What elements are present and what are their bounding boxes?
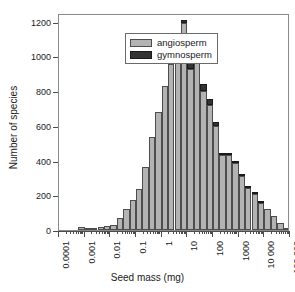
x-axis-minor-tick: [91, 231, 92, 234]
y-axis-tick-label: 600: [36, 122, 51, 131]
x-axis-minor-tick: [179, 231, 180, 234]
x-axis-minor-tick: [276, 231, 277, 234]
x-axis-title: Seed mass (mg): [0, 272, 295, 283]
legend-swatch-angiosperm: [130, 39, 152, 47]
x-axis-minor-tick: [96, 231, 97, 234]
x-axis-tick: [84, 231, 85, 237]
x-axis-minor-tick: [117, 231, 118, 234]
legend-item: angiosperm: [130, 37, 212, 48]
y-axis-tick-label: 200: [36, 192, 51, 201]
bar-segment-gymnosperm: [252, 192, 258, 194]
x-axis-minor-tick: [256, 231, 257, 234]
legend-label-angiosperm: angiosperm: [157, 38, 207, 48]
x-axis-minor-tick: [199, 231, 200, 234]
x-axis-tick: [238, 231, 239, 237]
x-axis-tick: [212, 231, 213, 237]
x-axis-tick: [58, 231, 59, 237]
x-axis-minor-tick: [127, 231, 128, 234]
x-axis-minor-tick: [150, 231, 151, 234]
x-axis-tick: [263, 231, 264, 237]
x-axis-tick-label: 10 000: [267, 241, 276, 269]
x-axis-tick: [186, 231, 187, 237]
bar-segment-gymnosperm: [213, 122, 219, 126]
x-axis-tick-label: 0.0001: [62, 241, 71, 269]
x-axis-minor-tick: [102, 231, 103, 234]
x-axis-tick-label: 100 000: [293, 241, 295, 274]
x-axis-minor-tick: [73, 231, 74, 234]
bar-segment-gymnosperm: [200, 84, 206, 91]
legend-swatch-gymnosperm: [130, 51, 152, 59]
bar-segment-gymnosperm: [258, 201, 264, 203]
y-axis-title: Number of species: [8, 68, 19, 188]
y-axis-tick-label: 0: [46, 227, 51, 236]
legend-label-gymnosperm: gymnosperm: [157, 50, 212, 60]
x-axis-tick-label: 10: [190, 241, 199, 251]
x-axis-minor-tick: [122, 231, 123, 234]
x-axis-minor-tick: [227, 231, 228, 234]
x-axis-minor-tick: [202, 231, 203, 234]
x-axis-minor-tick: [279, 231, 280, 234]
x-axis-tick-label: 0.01: [113, 241, 122, 259]
y-axis-tick-label: 400: [36, 157, 51, 166]
x-axis-tick: [135, 231, 136, 237]
figure-seed-mass-histogram: Number of species 020040060080010001200 …: [0, 0, 295, 292]
x-axis-minor-tick: [224, 231, 225, 234]
x-axis-minor-tick: [70, 231, 71, 234]
x-axis-minor-tick: [253, 231, 254, 234]
x-axis-tick-label: 0.1: [139, 241, 148, 254]
x-axis-minor-tick: [125, 231, 126, 234]
x-axis-minor-tick: [194, 231, 195, 234]
x-axis: 0.00010.0010.010.1110100100010 000100 00…: [58, 231, 289, 232]
bar-segment-gymnosperm: [226, 153, 232, 155]
bar-segment-gymnosperm: [181, 20, 187, 24]
x-axis-minor-tick: [176, 231, 177, 234]
x-axis-tick-label: 100: [216, 241, 225, 256]
x-axis-tick: [161, 231, 162, 237]
x-axis-minor-tick: [143, 231, 144, 234]
bar-segment-gymnosperm: [207, 99, 213, 106]
x-axis-minor-tick: [153, 231, 154, 234]
x-axis-minor-tick: [66, 231, 67, 234]
x-axis-tick-label: 0.001: [88, 241, 97, 264]
plot-area: angiospermgymnosperm: [58, 14, 289, 231]
x-axis-minor-tick: [173, 231, 174, 234]
y-axis-tick-label: 800: [36, 88, 51, 97]
x-axis-minor-tick: [250, 231, 251, 234]
x-axis-minor-tick: [271, 231, 272, 234]
x-axis-minor-tick: [76, 231, 77, 234]
bar-segment-gymnosperm: [232, 161, 238, 163]
x-axis-minor-tick: [245, 231, 246, 234]
x-axis-tick-label: 1: [165, 241, 174, 246]
x-axis-minor-tick: [281, 231, 282, 234]
legend-item: gymnosperm: [130, 49, 212, 60]
bar-segment-angiosperm: [284, 228, 288, 230]
y-axis-tick-label: 1200: [31, 18, 51, 27]
legend: angiospermgymnosperm: [125, 33, 218, 64]
x-axis-minor-tick: [168, 231, 169, 234]
x-axis-minor-tick: [230, 231, 231, 234]
x-axis-minor-tick: [204, 231, 205, 234]
x-axis-minor-tick: [147, 231, 148, 234]
x-axis-minor-tick: [99, 231, 100, 234]
x-axis-tick: [289, 231, 290, 237]
x-axis-minor-tick: [220, 231, 221, 234]
y-axis-tick-label: 1000: [31, 53, 51, 62]
x-axis-tick-label: 1000: [242, 241, 251, 261]
bar-segment-gymnosperm: [245, 186, 251, 188]
bar-segment-gymnosperm: [239, 174, 245, 176]
histogram-bar: [284, 228, 288, 230]
x-axis-tick: [109, 231, 110, 237]
